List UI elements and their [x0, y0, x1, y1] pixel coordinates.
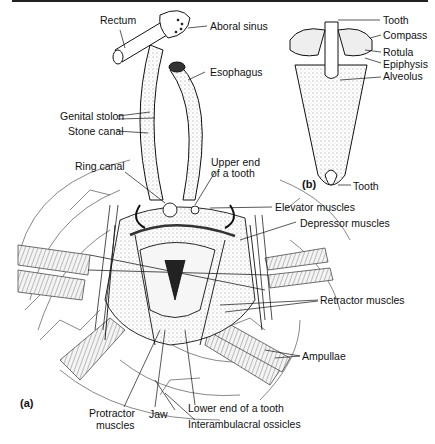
label-upper-end-tooth-2: of a tooth: [211, 167, 255, 179]
label-rectum: Rectum: [100, 14, 136, 26]
label-depressor-muscles: Depressor muscles: [300, 217, 390, 229]
label-genital-stolon: Genital stolon: [60, 110, 124, 122]
label-b-epiphysis: Epiphysis: [383, 58, 428, 70]
label-b-tooth-bottom: Tooth: [353, 180, 379, 192]
esophagus-tube: [140, 45, 202, 200]
label-jaw: Jaw: [149, 408, 168, 420]
label-ampullae: Ampullae: [302, 350, 346, 362]
label-protractor-muscles-2: muscles: [96, 419, 135, 431]
panel-b-label: (b): [302, 178, 316, 190]
label-protractor-muscles-1: Protractor: [89, 407, 135, 419]
label-b-compass: Compass: [383, 29, 427, 41]
label-retractor-muscles: Retractor muscles: [320, 294, 405, 306]
label-aboral-sinus: Aboral sinus: [210, 20, 268, 32]
label-lower-end-tooth: Lower end of a tooth: [188, 402, 284, 414]
label-b-rotula: Rotula: [383, 46, 413, 58]
panel-b-jaw: [290, 22, 372, 185]
label-b-alveolus: Alveolus: [383, 70, 423, 82]
label-b-tooth-top: Tooth: [383, 14, 409, 26]
label-esophagus: Esophagus: [210, 66, 263, 78]
panel-a-label: (a): [20, 397, 33, 409]
label-ring-canal: Ring canal: [75, 160, 125, 172]
label-elevator-muscles: Elevator muscles: [275, 201, 355, 213]
label-stone-canal: Stone canal: [68, 125, 123, 137]
label-interambulacral-ossicles: Interambulacral ossicles: [188, 418, 301, 430]
